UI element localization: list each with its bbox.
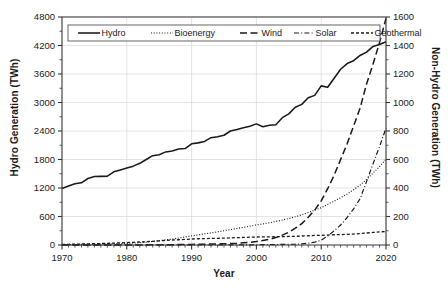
x-tick-label: 2010 bbox=[311, 252, 332, 263]
series-lines bbox=[62, 18, 386, 245]
legend-label-bioenergy[interactable]: Bioenergy bbox=[175, 28, 216, 38]
legend-label-geothermal[interactable]: Geothermal bbox=[375, 28, 422, 38]
y-tick-left: 4800 bbox=[34, 11, 55, 22]
x-tick-label: 2000 bbox=[246, 252, 267, 263]
x-tick-label: 1980 bbox=[116, 252, 137, 263]
y-tick-right: 1200 bbox=[393, 68, 414, 79]
legend-label-solar[interactable]: Solar bbox=[316, 28, 337, 38]
y-tick-right: 1600 bbox=[393, 11, 414, 22]
chart-legend[interactable]: HydroBioenergyWindSolarGeothermal bbox=[68, 25, 422, 41]
y-tick-right: 200 bbox=[393, 211, 409, 222]
x-tick-label: 1990 bbox=[181, 252, 202, 263]
series-line-geothermal bbox=[62, 231, 386, 244]
series-line-bioenergy bbox=[62, 160, 386, 245]
x-tick-label: 1970 bbox=[51, 252, 72, 263]
y-tick-right: 600 bbox=[393, 154, 409, 165]
x-tick-label: 2020 bbox=[375, 252, 396, 263]
y-tick-right: 1400 bbox=[393, 40, 414, 51]
y-axis-left-title: Hydro Generation (TWh) bbox=[9, 38, 20, 198]
legend-label-hydro[interactable]: Hydro bbox=[102, 28, 126, 38]
axes bbox=[58, 17, 390, 250]
y-axis-right-title: Non-Hydro Generation (TWh) bbox=[430, 38, 441, 198]
y-tick-right: 400 bbox=[393, 182, 409, 193]
y-tick-left: 1800 bbox=[34, 154, 55, 165]
y-tick-left: 600 bbox=[39, 211, 55, 222]
chart-figure: 0600120018002400300036004200480002004006… bbox=[0, 0, 448, 290]
y-tick-left: 2400 bbox=[34, 125, 55, 136]
y-tick-right: 1000 bbox=[393, 97, 414, 108]
y-tick-left: 0 bbox=[50, 239, 55, 250]
series-line-wind bbox=[62, 18, 386, 245]
y-tick-left: 1200 bbox=[34, 182, 55, 193]
tick-labels: 0600120018002400300036004200480002004006… bbox=[34, 11, 414, 263]
series-line-solar bbox=[62, 128, 386, 245]
y-tick-right: 800 bbox=[393, 125, 409, 136]
y-tick-right: 0 bbox=[393, 239, 398, 250]
y-tick-left: 4200 bbox=[34, 40, 55, 51]
series-line-hydro bbox=[62, 42, 386, 189]
line-chart: 0600120018002400300036004200480002004006… bbox=[0, 0, 448, 290]
y-tick-left: 3000 bbox=[34, 97, 55, 108]
legend-label-wind[interactable]: Wind bbox=[262, 28, 283, 38]
gridlines bbox=[62, 17, 386, 245]
y-tick-left: 3600 bbox=[34, 68, 55, 79]
x-axis-title: Year bbox=[0, 268, 448, 279]
